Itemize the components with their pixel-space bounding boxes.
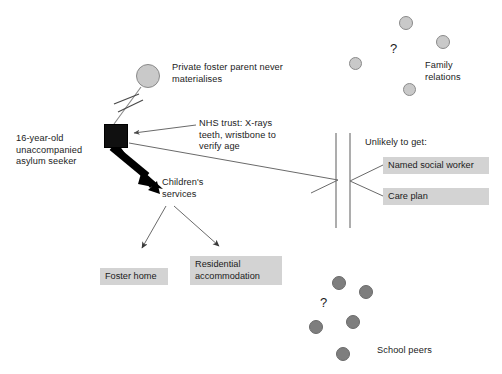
school-peer-circle[interactable] bbox=[346, 315, 360, 329]
link-focal-to-childrens-services bbox=[112, 145, 163, 194]
care-plan-box[interactable]: Care plan bbox=[383, 188, 489, 205]
school-peer-circle[interactable] bbox=[359, 285, 373, 299]
residential-accommodation-box[interactable]: Residential accommodation bbox=[190, 256, 282, 285]
link-barrier-to-care-plan bbox=[350, 181, 383, 196]
family-relation-circle[interactable] bbox=[399, 16, 413, 30]
private-foster-parent-label: Private foster parent never materialises bbox=[172, 62, 312, 85]
diagram-canvas: ? Family relations ? School peers 16-yea… bbox=[0, 0, 502, 374]
school-peers-label: School peers bbox=[377, 345, 467, 357]
family-relation-circle[interactable] bbox=[403, 83, 416, 96]
unlikely-to-get-label: Unlikely to get: bbox=[365, 137, 465, 149]
named-social-worker-box[interactable]: Named social worker bbox=[383, 157, 489, 174]
link-services-to-residential bbox=[174, 206, 219, 246]
family-relation-circle[interactable] bbox=[436, 35, 450, 49]
barrier-stub-line bbox=[311, 180, 338, 193]
school-peer-circle[interactable] bbox=[336, 347, 350, 361]
diagram-connectors-layer bbox=[0, 0, 502, 374]
focal-person-label: 16-year-old unaccompanied asylum seeker bbox=[16, 133, 104, 168]
link-focal-to-foster-parent bbox=[114, 87, 141, 124]
link-services-to-foster-home bbox=[142, 206, 166, 248]
family-relations-label: Family relations bbox=[425, 60, 495, 83]
family-relation-circle[interactable] bbox=[349, 57, 362, 70]
link-nhs-to-focal bbox=[134, 125, 196, 133]
family-relations-question-mark: ? bbox=[390, 42, 397, 55]
school-peer-circle[interactable] bbox=[332, 276, 346, 290]
school-peer-circle[interactable] bbox=[309, 320, 323, 334]
foster-home-box[interactable]: Foster home bbox=[100, 268, 168, 285]
childrens-services-label: Children's services bbox=[162, 177, 232, 200]
nhs-trust-label: NHS trust: X-rays teeth, wristbone to ve… bbox=[199, 118, 299, 153]
focal-person-node[interactable] bbox=[104, 124, 128, 148]
private-foster-parent-node[interactable] bbox=[136, 64, 160, 88]
severed-hatch-1 bbox=[114, 94, 139, 104]
link-barrier-to-named-social-worker bbox=[350, 165, 383, 181]
school-peers-question-mark: ? bbox=[320, 296, 327, 309]
